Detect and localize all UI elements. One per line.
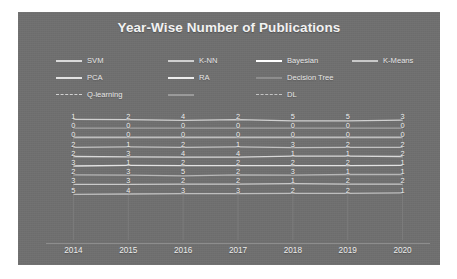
data-label: 1: [390, 186, 416, 195]
data-label: 0: [115, 130, 141, 139]
data-label: 1: [115, 158, 141, 167]
data-label: 0: [170, 130, 196, 139]
data-label: 4: [225, 149, 251, 158]
data-labels-2014: 100223235: [60, 112, 86, 195]
data-label: 1: [280, 176, 306, 185]
legend-item-q-learning[interactable]: Q-learning: [56, 90, 122, 99]
data-label: 0: [335, 130, 361, 139]
data-label: 2: [280, 186, 306, 195]
data-label: 2: [335, 140, 361, 149]
x-axis-labels: 2014201520162017201820192020: [46, 246, 430, 262]
data-label: 2: [390, 140, 416, 149]
legend-label: Bayesian: [287, 56, 318, 65]
data-label: 2: [60, 140, 86, 149]
data-label: 1: [335, 167, 361, 176]
data-label: 3: [390, 112, 416, 121]
legend-row: Q-learningDL: [56, 86, 416, 103]
x-tick-2017: 2017: [216, 246, 260, 255]
data-label: 0: [225, 130, 251, 139]
data-label: 4: [115, 186, 141, 195]
data-label: 0: [390, 121, 416, 130]
x-tick-2018: 2018: [271, 246, 315, 255]
data-label: 3: [60, 158, 86, 167]
data-labels-2015: 200131334: [115, 112, 141, 195]
data-label: 5: [60, 186, 86, 195]
data-label: 3: [60, 176, 86, 185]
data-label: 3: [225, 186, 251, 195]
data-label: 2: [390, 149, 416, 158]
legend-label: PCA: [87, 73, 103, 82]
legend-label: K-Means: [383, 56, 413, 65]
legend-item-empty[interactable]: [352, 94, 383, 96]
data-label: 1: [280, 149, 306, 158]
data-label: 0: [335, 121, 361, 130]
data-label: 2: [225, 158, 251, 167]
legend-swatch-icon: [256, 60, 282, 62]
legend-item-pca[interactable]: PCA: [56, 73, 103, 82]
data-label: 5: [170, 167, 196, 176]
data-label: 3: [280, 140, 306, 149]
legend-item-dl[interactable]: DL: [256, 90, 297, 99]
data-label: 2: [170, 158, 196, 167]
legend-swatch-icon: [256, 94, 282, 95]
chart-screenshot: Year-Wise Number of Publications SVMK-NN…: [0, 0, 457, 279]
data-label: 3: [115, 176, 141, 185]
legend-swatch-icon: [168, 60, 194, 62]
data-label: 3: [115, 149, 141, 158]
data-label: 2: [280, 158, 306, 167]
data-labels-2018: 500312312: [280, 112, 306, 195]
data-label: 3: [170, 186, 196, 195]
data-labels-2019: 500212122: [335, 112, 361, 195]
data-label: 2: [335, 176, 361, 185]
data-label-columns: 1002232352001313344002425232001422235003…: [46, 112, 430, 240]
data-label: 0: [225, 121, 251, 130]
data-labels-2016: 400242523: [170, 112, 196, 195]
data-label: 2: [335, 158, 361, 167]
data-label: 0: [60, 130, 86, 139]
data-label: 0: [280, 121, 306, 130]
data-labels-2020: 300221121: [390, 112, 416, 195]
legend-row: SVMK-NNBayesianK-Means: [56, 52, 416, 69]
data-label: 1: [335, 149, 361, 158]
x-axis-rule: [46, 243, 430, 244]
data-label: 1: [225, 140, 251, 149]
legend-swatch-icon: [352, 60, 378, 62]
data-label: 4: [170, 112, 196, 121]
x-tick-2016: 2016: [161, 246, 205, 255]
data-label: 0: [280, 130, 306, 139]
data-label: 4: [170, 149, 196, 158]
legend-label: Q-learning: [87, 90, 122, 99]
legend-label: DL: [287, 90, 297, 99]
data-label: 1: [390, 167, 416, 176]
chart-panel: Year-Wise Number of Publications SVMK-NN…: [18, 12, 440, 265]
data-labels-2017: 200142223: [225, 112, 251, 195]
legend-item-empty[interactable]: [168, 94, 199, 96]
data-label: 2: [390, 176, 416, 185]
data-label: 5: [335, 112, 361, 121]
legend-item-bayesian[interactable]: Bayesian: [256, 56, 318, 65]
data-label: 2: [60, 167, 86, 176]
legend-row: PCARADecision Tree: [56, 69, 416, 86]
legend-swatch-icon: [352, 77, 378, 79]
data-label: 2: [225, 176, 251, 185]
legend-item-empty[interactable]: [352, 77, 383, 79]
x-tick-2019: 2019: [326, 246, 370, 255]
legend-label: K-NN: [199, 56, 218, 65]
legend-swatch-icon: [56, 60, 82, 62]
x-tick-2014: 2014: [51, 246, 95, 255]
legend-swatch-icon: [168, 94, 194, 96]
data-label: 5: [280, 112, 306, 121]
data-label: 2: [170, 140, 196, 149]
legend-item-k-means[interactable]: K-Means: [352, 56, 413, 65]
data-label: 0: [60, 121, 86, 130]
data-label: 2: [115, 112, 141, 121]
legend-item-svm[interactable]: SVM: [56, 56, 103, 65]
legend-swatch-icon: [168, 77, 194, 79]
data-label: 1: [60, 112, 86, 121]
legend-item-decision-tree[interactable]: Decision Tree: [256, 73, 333, 82]
data-label: 0: [390, 130, 416, 139]
data-label: 2: [225, 112, 251, 121]
legend-item-k-nn[interactable]: K-NN: [168, 56, 218, 65]
legend-item-ra[interactable]: RA: [168, 73, 210, 82]
data-label: 2: [225, 167, 251, 176]
